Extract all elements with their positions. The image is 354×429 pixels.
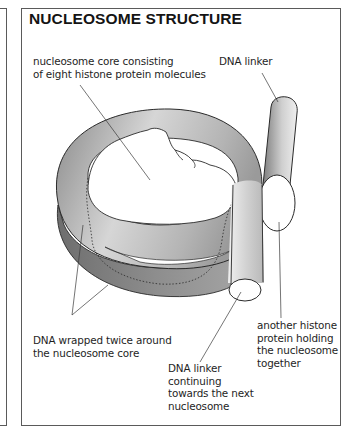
dna-linker-tube-top xyxy=(263,97,297,185)
label-dna-linker-top: DNA linker xyxy=(219,55,272,68)
label-histone-h1: another histone protein holding the nucl… xyxy=(257,319,338,369)
label-nucleosome-core: nucleosome core consisting of eight hist… xyxy=(33,55,206,80)
label-dna-linker-next: DNA linker continuing towards the next n… xyxy=(168,362,254,412)
label-dna-wrapped: DNA wrapped twice around the nucleosome … xyxy=(33,334,172,359)
histone-h1-oval xyxy=(259,175,295,231)
dna-linker-tube-front xyxy=(228,180,264,301)
